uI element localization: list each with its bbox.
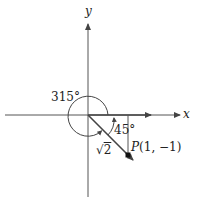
sqrt-symbol: √ [96,143,104,157]
x-axis-label: x [183,108,190,120]
point-p-name: P [131,140,139,154]
y-axis-label: y [85,5,92,17]
angle-315-label: 315° [51,91,80,103]
point-p-coords: (1, −1) [139,140,181,154]
sqrt-radicand: 2 [104,143,112,157]
angle-45-label: 45° [114,124,135,136]
vector-length-label: √2 [96,144,111,156]
point-p-label: P(1, −1) [131,141,181,153]
point-p-marker [126,153,131,158]
diagram-canvas [0,0,217,200]
